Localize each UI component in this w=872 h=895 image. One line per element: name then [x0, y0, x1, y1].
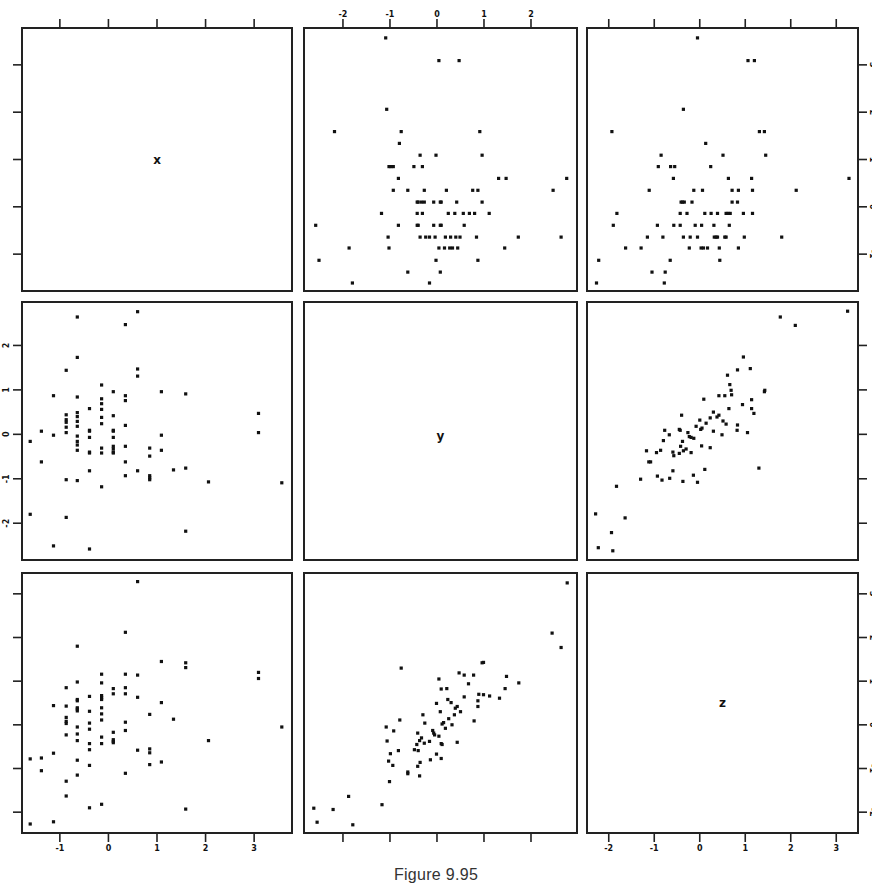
right-axis-row3: -2-10123 — [859, 572, 872, 834]
data-point — [351, 281, 354, 284]
data-point — [482, 661, 485, 664]
panel-diagonal-x: x — [21, 27, 293, 292]
data-point — [397, 224, 400, 227]
tick-label: -1 — [868, 764, 872, 773]
panel-z-vs-y — [586, 301, 859, 561]
data-point — [443, 246, 446, 249]
tick-label: -2 — [604, 844, 613, 853]
left-axis-row2: -2-1012 — [0, 301, 21, 561]
data-point — [455, 201, 458, 204]
right-axis-row2 — [859, 301, 872, 561]
data-point — [668, 477, 671, 480]
data-point — [794, 324, 797, 327]
data-point — [476, 699, 479, 702]
data-point — [453, 713, 456, 716]
data-point — [472, 674, 475, 677]
data-point — [100, 402, 103, 405]
data-point — [702, 398, 705, 401]
data-point — [76, 395, 79, 398]
data-point — [124, 721, 127, 724]
data-point — [40, 756, 43, 759]
data-point — [700, 444, 703, 447]
data-point — [669, 259, 672, 262]
plot-area — [303, 27, 578, 292]
tick-label: 1 — [2, 387, 11, 393]
data-point — [76, 443, 79, 446]
data-point — [88, 806, 91, 809]
data-point — [385, 108, 388, 111]
data-point — [112, 447, 115, 450]
data-point — [463, 695, 466, 698]
tick-label: 3 — [868, 591, 872, 597]
data-point — [696, 236, 699, 239]
data-point — [437, 59, 440, 62]
data-point — [112, 741, 115, 744]
data-point — [136, 580, 139, 583]
bottom-axis-col2 — [303, 834, 578, 864]
data-point — [648, 189, 651, 192]
data-point — [721, 154, 724, 157]
data-point — [718, 259, 721, 262]
data-point — [392, 729, 395, 732]
data-point — [696, 36, 699, 39]
data-point — [112, 436, 115, 439]
data-point — [65, 686, 68, 689]
data-point — [694, 224, 697, 227]
tick-label: -1 — [650, 844, 659, 853]
data-point — [380, 803, 383, 806]
data-point — [29, 822, 32, 825]
data-point — [160, 449, 163, 452]
data-point — [488, 212, 491, 215]
data-point — [736, 429, 739, 432]
data-point — [136, 696, 139, 699]
data-point — [391, 764, 394, 767]
data-point — [160, 760, 163, 763]
data-point — [517, 681, 520, 684]
data-point — [454, 707, 457, 710]
data-point — [706, 246, 709, 249]
panel-y-vs-z — [303, 572, 578, 834]
data-point — [725, 423, 728, 426]
data-point — [447, 212, 450, 215]
data-point — [428, 281, 431, 284]
data-point — [112, 687, 115, 690]
data-point — [434, 236, 437, 239]
data-point — [257, 412, 260, 415]
data-point — [720, 433, 723, 436]
data-point — [312, 807, 315, 810]
data-point — [685, 212, 688, 215]
data-point — [446, 698, 449, 701]
data-point — [52, 394, 55, 397]
data-point — [40, 769, 43, 772]
data-point — [124, 772, 127, 775]
data-point — [517, 236, 520, 239]
data-point — [728, 383, 731, 386]
data-point — [672, 224, 675, 227]
data-point — [673, 165, 676, 168]
data-point — [100, 416, 103, 419]
data-point — [764, 154, 767, 157]
data-point — [439, 710, 442, 713]
data-point — [751, 212, 754, 215]
data-point — [610, 531, 613, 534]
data-point — [723, 236, 726, 239]
data-point — [478, 130, 481, 133]
data-point — [148, 763, 151, 766]
data-point — [712, 430, 715, 433]
data-point — [76, 645, 79, 648]
data-point — [65, 426, 68, 429]
data-point — [712, 224, 715, 227]
data-point — [700, 246, 703, 249]
data-point — [659, 449, 662, 452]
data-point — [690, 451, 693, 454]
data-point — [65, 431, 68, 434]
data-point — [416, 201, 419, 204]
data-point — [471, 189, 474, 192]
data-point — [76, 356, 79, 359]
data-point — [184, 661, 187, 664]
data-point — [317, 259, 320, 262]
data-point — [136, 310, 139, 313]
data-point — [476, 259, 479, 262]
data-point — [727, 407, 730, 410]
data-point — [681, 440, 684, 443]
